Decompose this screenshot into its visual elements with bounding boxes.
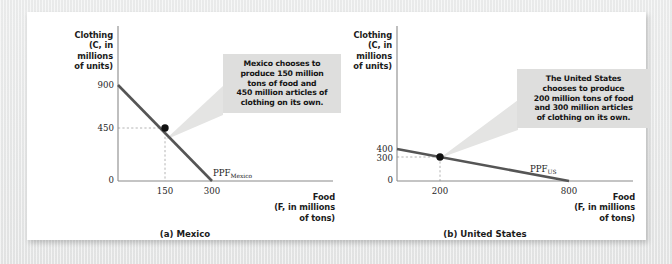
- figure-page: Clothing(C, inmillionsof units) 900 450 …: [0, 0, 672, 264]
- mexico-ppf-line: [118, 85, 212, 181]
- us-production-point: [436, 153, 443, 160]
- mexico-y-axis-title: Clothing(C, inmillionsof units): [45, 30, 113, 72]
- mexico-caption: (a) Mexico: [105, 229, 265, 239]
- us-x-axis-title: Food(F, in millionsof tons): [543, 192, 635, 223]
- us-callout-pointer: [440, 100, 518, 158]
- us-y-axis-title: Clothing(C, inmillionsof units): [345, 30, 392, 72]
- panel-mexico: Clothing(C, inmillionsof units) 900 450 …: [45, 12, 345, 240]
- mexico-ytick-450: 450: [83, 123, 114, 133]
- mexico-production-point: [161, 124, 168, 131]
- mexico-xtick-300: 300: [197, 186, 227, 196]
- us-caption: (b) United States: [395, 229, 575, 239]
- mexico-ytick-900: 900: [83, 80, 114, 90]
- mexico-callout-pointer: [165, 86, 223, 140]
- us-ytick-300: 300: [362, 153, 393, 163]
- mexico-ppf-label: PPFMexico: [213, 168, 252, 179]
- mexico-ytick-0: 0: [83, 175, 114, 185]
- figure-card: Clothing(C, inmillionsof units) 900 450 …: [27, 12, 646, 240]
- us-ppf-label: PPFUS: [530, 164, 557, 175]
- mexico-xtick-150: 150: [150, 186, 180, 196]
- mexico-x-axis-title: Food(F, in millionsof tons): [243, 192, 335, 223]
- us-ytick-0: 0: [362, 175, 393, 185]
- us-annotation-callout: The United Stateschooses to produce200 m…: [517, 69, 650, 128]
- us-xtick-200: 200: [425, 186, 455, 196]
- mexico-annotation-callout: Mexico chooses toproduce 150 milliontons…: [223, 54, 341, 113]
